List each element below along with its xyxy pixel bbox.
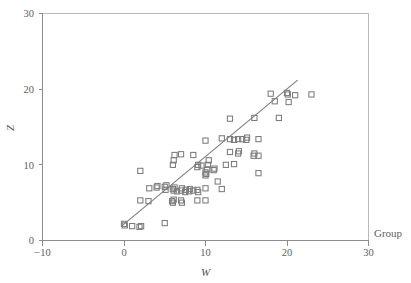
data-point-marker [172, 152, 177, 157]
data-point-marker [138, 168, 143, 173]
data-point-marker [227, 149, 232, 154]
data-point-marker [309, 92, 314, 97]
y-axis-title: Z [4, 124, 16, 131]
data-point-marker [203, 198, 208, 203]
x-tick-label-neg10: −10 [34, 247, 50, 258]
chart-canvas: 0 10 20 30 −10 0 10 20 30 W Z Group [0, 0, 411, 283]
data-point-marker [203, 138, 208, 143]
data-point-marker [223, 162, 228, 167]
data-point-marker [286, 99, 291, 104]
data-point-marker [178, 152, 183, 157]
axes [43, 14, 369, 241]
data-point-marker [256, 171, 261, 176]
x-tick-label-0: 0 [121, 247, 126, 258]
x-tick-label-10: 10 [200, 247, 211, 258]
scatter-plot-figure: 0 10 20 30 −10 0 10 20 30 W Z Group [0, 0, 411, 283]
data-points-layer [121, 90, 314, 229]
y-axis-tick-labels: 0 10 20 30 [24, 8, 35, 246]
y-tick-label-10: 10 [24, 160, 35, 171]
regression-line-layer [122, 80, 298, 226]
data-point-marker [276, 115, 281, 120]
regression-line [122, 80, 298, 226]
y-tick-label-20: 20 [24, 84, 35, 95]
data-point-marker [130, 224, 135, 229]
data-point-marker [227, 116, 232, 121]
data-point-marker [215, 179, 220, 184]
y-axis-ticks [39, 14, 43, 241]
data-point-marker [268, 91, 273, 96]
x-tick-label-30: 30 [363, 247, 374, 258]
data-point-marker [256, 137, 261, 142]
y-tick-label-0: 0 [29, 235, 34, 246]
x-axis-tick-labels: −10 0 10 20 30 [34, 247, 373, 258]
data-point-marker [138, 198, 143, 203]
x-axis-title: W [201, 266, 211, 278]
data-point-marker [162, 221, 167, 226]
data-point-marker [231, 161, 236, 166]
data-point-marker [219, 186, 224, 191]
x-tick-label-20: 20 [282, 247, 293, 258]
data-point-marker [195, 198, 200, 203]
y-tick-label-30: 30 [24, 8, 35, 19]
group-label: Group [374, 227, 403, 239]
data-point-marker [293, 93, 298, 98]
data-point-marker [219, 136, 224, 141]
data-point-marker [147, 186, 152, 191]
data-point-marker [203, 186, 208, 191]
plot-frame [43, 14, 369, 241]
x-axis-ticks [43, 241, 369, 246]
data-point-marker [191, 152, 196, 157]
